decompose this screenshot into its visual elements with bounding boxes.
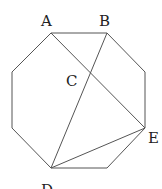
- label-c: C: [66, 72, 77, 90]
- octagon-diagram: A B C D E: [0, 0, 162, 189]
- label-e: E: [148, 129, 159, 147]
- diagonals: [51, 33, 145, 168]
- label-d: D: [41, 181, 53, 189]
- label-b: B: [99, 12, 110, 30]
- label-a: A: [40, 12, 52, 30]
- point-labels: A B C D E: [40, 12, 159, 189]
